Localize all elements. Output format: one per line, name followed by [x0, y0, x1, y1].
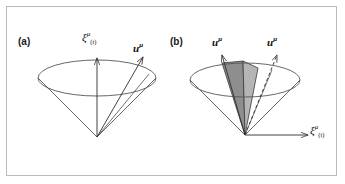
vector-label-b-xi-t: ξμ(t)	[310, 124, 324, 138]
xi-a-subscript: (t)	[90, 38, 96, 45]
xi-b-subscript: (t)	[318, 131, 324, 138]
xi-b-superscript: μ	[315, 123, 319, 131]
vector-label-b-u-2: uμ	[267, 36, 277, 48]
figure-canvas: (a) (b) ξμ(t) uμ uμ uμ ξμ(t)	[0, 0, 345, 184]
xi-a-superscript: μ	[87, 30, 91, 38]
panel-a-cone-group	[38, 57, 156, 137]
u-b1-superscript: μ	[218, 35, 222, 43]
vector-label-a-xi-t: ξμ(t)	[82, 31, 96, 45]
u-a-superscript: μ	[139, 41, 143, 49]
cone-a-generator-u	[97, 74, 149, 137]
panel-label-a: (a)	[18, 36, 30, 47]
vector-label-a-u: uμ	[133, 42, 143, 54]
panel-label-b: (b)	[170, 36, 183, 47]
vector-a-u	[97, 57, 143, 137]
diagram-svg	[0, 0, 345, 184]
vector-label-b-u-1: uμ	[212, 36, 222, 48]
panel-b-cone-group	[190, 55, 308, 135]
u-b2-superscript: μ	[273, 35, 277, 43]
